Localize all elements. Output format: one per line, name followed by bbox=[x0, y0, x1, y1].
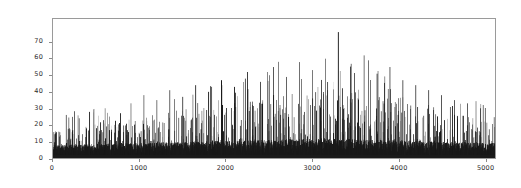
y-tick-mark bbox=[49, 58, 52, 59]
y-tick-label: 10 bbox=[34, 137, 43, 146]
x-tick-mark bbox=[52, 159, 53, 162]
y-tick-label: 70 bbox=[34, 37, 43, 46]
y-tick-label: 40 bbox=[34, 87, 43, 96]
y-tick-label: 30 bbox=[34, 104, 43, 113]
plot-axes bbox=[52, 18, 496, 159]
x-tick-mark bbox=[139, 159, 140, 162]
x-tick-mark bbox=[225, 159, 226, 162]
spectrum-spike-plot bbox=[53, 19, 495, 158]
x-tick-label: 4000 bbox=[390, 164, 407, 172]
y-tick-label: 0 bbox=[39, 154, 43, 163]
x-tick-mark bbox=[312, 159, 313, 162]
y-tick-mark bbox=[49, 92, 52, 93]
y-tick-label: 50 bbox=[34, 70, 43, 79]
x-tick-label: 3000 bbox=[303, 164, 320, 172]
y-tick-mark bbox=[49, 42, 52, 43]
x-tick-mark bbox=[399, 159, 400, 162]
y-tick-mark bbox=[49, 142, 52, 143]
x-tick-label: 1000 bbox=[130, 164, 147, 172]
x-tick-label: 2000 bbox=[217, 164, 234, 172]
x-tick-label: 5000 bbox=[477, 164, 494, 172]
x-tick-label: 0 bbox=[50, 164, 54, 172]
figure: 010203040506070 010002000300040005000 bbox=[0, 0, 521, 188]
y-tick-mark bbox=[49, 75, 52, 76]
y-tick-mark bbox=[49, 109, 52, 110]
x-tick-mark bbox=[486, 159, 487, 162]
y-tick-mark bbox=[49, 125, 52, 126]
y-tick-label: 60 bbox=[34, 53, 43, 62]
y-tick-label: 20 bbox=[34, 120, 43, 129]
